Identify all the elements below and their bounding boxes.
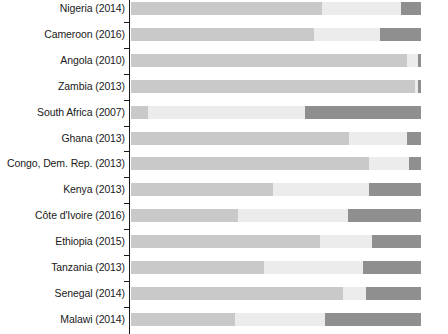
category-label: Ghana (2013) — [0, 132, 125, 145]
category-label: Zambia (2013) — [0, 80, 125, 93]
bar-segment-3 — [418, 80, 421, 93]
bar-segment-1 — [131, 235, 320, 248]
stacked-bar-chart: Nigeria (2014)Cameroon (2016)Angola (201… — [0, 0, 448, 334]
chart-row: South Africa (2007) — [0, 106, 448, 132]
axis-tick — [124, 100, 129, 101]
axis-tick — [124, 281, 129, 282]
chart-row: Malawi (2014) — [0, 313, 448, 334]
stacked-bar — [131, 132, 421, 145]
chart-row: Angola (2010) — [0, 54, 448, 80]
bar-segment-3 — [369, 183, 421, 196]
category-label: Nigeria (2014) — [0, 2, 125, 15]
stacked-bar — [131, 2, 421, 15]
stacked-bar — [131, 28, 421, 41]
bar-segment-3 — [372, 235, 421, 248]
axis-tick — [124, 203, 129, 204]
axis-tick — [124, 22, 129, 23]
chart-row: Senegal (2014) — [0, 287, 448, 313]
category-label: Tanzania (2013) — [0, 261, 125, 274]
axis-tick — [124, 229, 129, 230]
stacked-bar — [131, 80, 421, 93]
bar-segment-3 — [325, 313, 421, 326]
axis-tick — [124, 307, 129, 308]
bar-segment-3 — [366, 287, 421, 300]
bar-segment-1 — [131, 287, 343, 300]
chart-row: Congo, Dem. Rep. (2013) — [0, 157, 448, 183]
bar-segment-1 — [131, 209, 238, 222]
bar-segment-1 — [131, 106, 148, 119]
bar-segment-2 — [343, 287, 366, 300]
bar-segment-1 — [131, 28, 314, 41]
bar-segment-3 — [407, 132, 422, 145]
bar-segment-2 — [148, 106, 305, 119]
stacked-bar — [131, 235, 421, 248]
bar-segment-2 — [273, 183, 369, 196]
bar-segment-2 — [314, 28, 381, 41]
stacked-bar — [131, 287, 421, 300]
stacked-bar — [131, 313, 421, 326]
bar-segment-2 — [264, 261, 363, 274]
axis-tick — [124, 48, 129, 49]
bar-segment-1 — [131, 132, 349, 145]
axis-tick — [124, 74, 129, 75]
bar-segment-2 — [238, 209, 348, 222]
axis-tick — [124, 177, 129, 178]
chart-row: Ethiopia (2015) — [0, 235, 448, 261]
category-label: Cameroon (2016) — [0, 28, 125, 41]
bar-segment-2 — [349, 132, 407, 145]
bar-segment-1 — [131, 80, 415, 93]
category-label: Senegal (2014) — [0, 287, 125, 300]
stacked-bar — [131, 157, 421, 170]
chart-row: Cameroon (2016) — [0, 28, 448, 54]
bar-segment-1 — [131, 313, 235, 326]
category-label: Côte d'Ivoire (2016) — [0, 209, 125, 222]
stacked-bar — [131, 54, 421, 67]
chart-row: Zambia (2013) — [0, 80, 448, 106]
chart-row: Ghana (2013) — [0, 132, 448, 158]
category-label: Angola (2010) — [0, 54, 125, 67]
stacked-bar — [131, 183, 421, 196]
bar-segment-2 — [235, 313, 325, 326]
bar-segment-2 — [407, 54, 419, 67]
bar-segment-1 — [131, 183, 273, 196]
bar-segment-3 — [401, 2, 421, 15]
axis-tick — [124, 126, 129, 127]
category-label: Kenya (2013) — [0, 183, 125, 196]
bar-segment-1 — [131, 157, 369, 170]
chart-row: Tanzania (2013) — [0, 261, 448, 287]
chart-row: Kenya (2013) — [0, 183, 448, 209]
bar-segment-2 — [322, 2, 400, 15]
stacked-bar — [131, 261, 421, 274]
bar-segment-3 — [305, 106, 421, 119]
bar-segment-3 — [409, 157, 421, 170]
bar-segment-3 — [348, 209, 421, 222]
category-label: Malawi (2014) — [0, 313, 125, 326]
category-label: Congo, Dem. Rep. (2013) — [0, 157, 125, 170]
bar-segment-1 — [131, 261, 264, 274]
stacked-bar — [131, 106, 421, 119]
bar-segment-1 — [131, 2, 322, 15]
category-label: Ethiopia (2015) — [0, 235, 125, 248]
bar-segment-2 — [369, 157, 410, 170]
stacked-bar — [131, 209, 421, 222]
bar-segment-3 — [380, 28, 421, 41]
bar-segment-1 — [131, 54, 407, 67]
bar-segment-2 — [320, 235, 372, 248]
bar-segment-3 — [418, 54, 421, 67]
bar-segment-3 — [363, 261, 421, 274]
category-label: South Africa (2007) — [0, 106, 125, 119]
axis-tick — [124, 255, 129, 256]
chart-row: Nigeria (2014) — [0, 2, 448, 28]
chart-row: Côte d'Ivoire (2016) — [0, 209, 448, 235]
axis-tick — [124, 151, 129, 152]
